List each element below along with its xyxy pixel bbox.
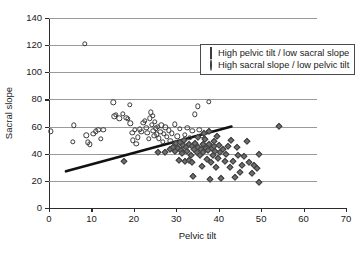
y-tick-label: 80 [31,95,42,105]
y-tick-label: 140 [26,13,42,23]
x-tick-label: 10 [86,214,97,224]
x-tick-label: 70 [341,214,352,224]
x-tick-label: 60 [298,214,309,224]
chart-legend: High pelvic tilt / low sacral slope High… [200,44,355,75]
x-axis-line [49,208,346,209]
x-tick [91,208,92,212]
plot-area: 020406080100120140 010203040506070 High … [49,18,346,208]
y-tick-label: 20 [31,176,42,186]
circle-marker-icon [205,60,216,72]
x-tick-label: 20 [129,214,140,224]
legend-item-high-sacral-slope: High sacral slope / low pelvic tilt [205,60,349,72]
x-tick [49,208,50,212]
legend-label-2: High sacral slope / low pelvic tilt [218,60,349,72]
x-tick-label: 30 [171,214,182,224]
y-tick-label: 120 [26,40,42,50]
legend-item-high-pelvic-tilt: High pelvic tilt / low sacral slope [205,48,349,60]
legend-label-1: High pelvic tilt / low sacral slope [218,48,349,60]
scatter-chart-figure: 020406080100120140 010203040506070 High … [0,0,362,267]
x-tick [346,208,347,212]
y-tick-label: 60 [31,122,42,132]
y-tick-label: 0 [37,203,42,213]
x-tick [134,208,135,212]
x-tick-label: 40 [213,214,224,224]
x-tick [219,208,220,212]
x-tick [304,208,305,212]
x-axis-title: Pelvic tilt [49,230,346,241]
x-tick [176,208,177,212]
y-tick-label: 40 [31,149,42,159]
diamond-marker-icon [205,48,216,60]
x-tick-label: 50 [256,214,267,224]
x-tick [261,208,262,212]
y-tick-label: 100 [26,68,42,78]
x-tick-label: 0 [46,214,51,224]
y-axis-title: Sacral slope [3,87,14,139]
